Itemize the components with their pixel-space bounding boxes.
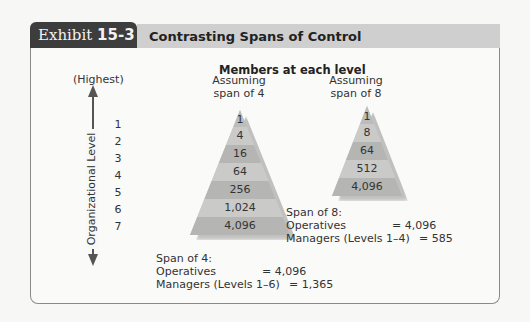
span8-summary-title: Span of 8:: [286, 206, 453, 219]
level-2: 2: [111, 135, 125, 148]
span4-managers-label: Managers (Levels 1–6): [156, 278, 289, 291]
span4-band-7: 4,096: [190, 217, 290, 235]
span4-heading: Assuming span of 4: [204, 74, 274, 100]
span8-managers-label: Managers (Levels 1–4): [286, 232, 419, 245]
level-5: 5: [111, 186, 125, 199]
span4-operatives-value: = 4,096: [262, 265, 306, 278]
span8-operatives-label: Operatives: [286, 219, 392, 232]
span8-band-5: 4,096: [332, 178, 402, 196]
exhibit-label: Exhibit: [38, 26, 92, 44]
exhibit-tab: Exhibit 15-3: [30, 22, 137, 48]
span8-managers-value: = 585: [419, 232, 453, 245]
span8-operatives-row: Operatives = 4,096: [286, 219, 453, 232]
level-3: 3: [111, 152, 125, 165]
level-7: 7: [111, 220, 125, 233]
span4-band-6: 1,024: [190, 199, 290, 217]
span8-operatives-value: = 4,096: [392, 219, 436, 232]
exhibit-number: 15-3: [97, 26, 135, 44]
arrow-down-icon: [88, 254, 98, 266]
span4-heading-line2: span of 4: [204, 87, 274, 100]
level-6: 6: [111, 203, 125, 216]
exhibit-header: Exhibit 15-3 Contrasting Spans of Contro…: [30, 22, 500, 48]
exhibit-title: Contrasting Spans of Control: [137, 24, 500, 48]
span4-managers-value: = 1,365: [289, 278, 333, 291]
span8-heading-line1: Assuming: [320, 74, 392, 87]
span4-summary-title: Span of 4:: [156, 252, 333, 265]
span4-operatives-row: Operatives = 4,096: [156, 265, 333, 278]
span4-summary: Span of 4: Operatives = 4,096 Managers (…: [156, 252, 333, 291]
span8-managers-row: Managers (Levels 1–4) = 585: [286, 232, 453, 245]
axis-label: Organizational Level: [86, 129, 98, 249]
axis-top-label: (Highest): [73, 73, 124, 86]
span4-operatives-label: Operatives: [156, 265, 262, 278]
span4-managers-row: Managers (Levels 1–6) = 1,365: [156, 278, 333, 291]
span8-summary: Span of 8: Operatives = 4,096 Managers (…: [286, 206, 453, 245]
level-4: 4: [111, 169, 125, 182]
span8-heading-line2: span of 8: [320, 87, 392, 100]
level-1: 1: [111, 118, 125, 131]
span4-heading-line1: Assuming: [204, 74, 274, 87]
span8-heading: Assuming span of 8: [320, 74, 392, 100]
